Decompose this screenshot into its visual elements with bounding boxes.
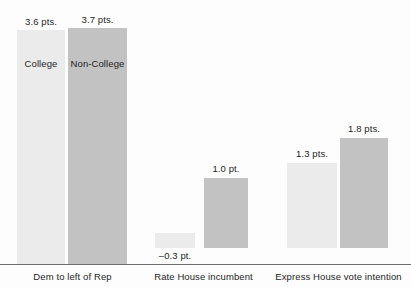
bar-rate-house-incumbent-college xyxy=(155,233,195,248)
value-label-express-house-vote-intention-college: 1.3 pts. xyxy=(278,148,346,159)
category-label-express-house-vote-intention: Express House vote intention xyxy=(266,271,411,282)
bar-chart-figure: 3.6 pts. College 3.7 pts. Non-College –0… xyxy=(0,0,411,287)
value-label-express-house-vote-intention-non-college: 1.8 pts. xyxy=(330,123,398,134)
bar-express-house-vote-intention-college xyxy=(287,163,337,248)
category-label-dem-to-left-of-rep: Dem to left of Rep xyxy=(10,271,135,282)
axis-baseline xyxy=(0,264,411,265)
category-label-rate-house-incumbent: Rate House incumbent xyxy=(141,271,266,282)
plot-area: 3.6 pts. College 3.7 pts. Non-College –0… xyxy=(0,0,411,265)
category-axis-labels: Dem to left of Rep Rate House incumbent … xyxy=(0,268,411,287)
inbar-label-non-college: Non-College xyxy=(63,58,132,69)
value-label-dem-to-left-of-rep-non-college: 3.7 pts. xyxy=(63,14,132,25)
value-label-rate-house-incumbent-non-college: 1.0 pt. xyxy=(192,163,260,174)
value-label-rate-house-incumbent-college: –0.3 pt. xyxy=(141,250,209,261)
bar-express-house-vote-intention-non-college xyxy=(340,138,388,248)
bar-rate-house-incumbent-non-college xyxy=(204,178,248,248)
